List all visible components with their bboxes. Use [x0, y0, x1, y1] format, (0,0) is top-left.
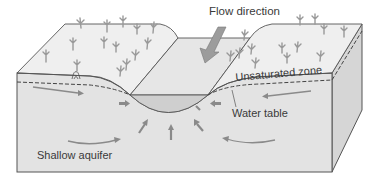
- shallow-aquifer-label: Shallow aquifer: [37, 150, 112, 161]
- groundwater-flow-arrow-icon: [119, 102, 125, 105]
- grass-tuft-icon: [297, 15, 303, 25]
- flow-direction-label: Flow direction: [209, 6, 280, 18]
- water-table-label: Water table: [232, 108, 288, 119]
- groundwater-flow-arrow-icon: [215, 102, 221, 105]
- grass-tuft-icon: [312, 14, 318, 24]
